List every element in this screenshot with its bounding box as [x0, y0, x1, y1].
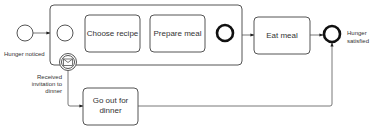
end-event-label-line1: Hunger: [347, 30, 367, 36]
start-event-hunger-noticed[interactable]: [17, 25, 33, 41]
boundary-event-label-line3: dinner: [45, 88, 62, 94]
boundary-message-event[interactable]: [60, 54, 77, 71]
task-prepare-meal-label: Prepare meal: [153, 29, 201, 38]
end-event-hunger-satisfied[interactable]: [324, 26, 340, 42]
end-event-label-line2: satisfied: [347, 38, 369, 44]
subprocess-cook-at-home[interactable]: [50, 5, 242, 65]
boundary-event-label-line2: invitation to: [32, 81, 63, 87]
flow-boundary-to-go-out[interactable]: [68, 71, 83, 106]
bpmn-diagram: Hunger noticed Choose recipe Prepare mea…: [0, 0, 370, 130]
task-go-out-for-dinner[interactable]: Go out for dinner: [83, 88, 138, 125]
boundary-event-label-line1: Received: [37, 74, 62, 80]
subprocess-start-event[interactable]: [57, 25, 73, 41]
task-eat-meal-label: Eat meal: [266, 31, 298, 40]
envelope-icon: [64, 59, 73, 66]
subprocess-end-event[interactable]: [217, 25, 233, 41]
task-choose-recipe[interactable]: Choose recipe: [85, 15, 140, 52]
task-go-out-label-line2: dinner: [99, 106, 122, 115]
task-go-out-label-line1: Go out for: [93, 96, 129, 105]
task-eat-meal[interactable]: Eat meal: [254, 17, 310, 54]
task-choose-recipe-label: Choose recipe: [87, 29, 139, 38]
task-prepare-meal[interactable]: Prepare meal: [150, 15, 205, 52]
start-event-label: Hunger noticed: [4, 51, 45, 57]
